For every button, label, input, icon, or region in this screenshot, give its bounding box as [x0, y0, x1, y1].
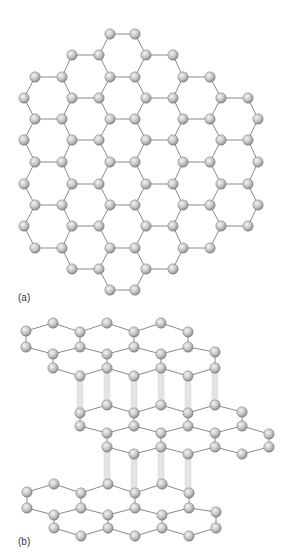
- carbon-atom: [75, 327, 85, 337]
- carbon-atom: [30, 157, 40, 167]
- carbon-atom: [130, 243, 140, 253]
- carbon-atom: [237, 407, 247, 417]
- carbon-atom: [48, 363, 58, 373]
- carbon-atom: [76, 488, 86, 498]
- carbon-atom: [168, 221, 178, 231]
- carbon-atom: [168, 264, 178, 274]
- panel-a-label: (a): [18, 292, 30, 303]
- carbon-atom: [103, 510, 113, 520]
- carbon-atom: [216, 93, 226, 103]
- carbon-atom: [178, 114, 188, 124]
- carbon-atom: [130, 488, 140, 498]
- carbon-atom: [205, 114, 215, 124]
- carbon-atom: [237, 421, 247, 431]
- carbon-atom: [94, 264, 104, 274]
- carbon-atom: [57, 114, 67, 124]
- carbon-atom: [216, 135, 226, 145]
- carbon-atom: [205, 243, 215, 253]
- carbon-atom: [205, 157, 215, 167]
- carbon-atom: [205, 200, 215, 210]
- carbon-atom: [67, 264, 77, 274]
- carbon-atom: [76, 503, 86, 513]
- carbon-atom: [178, 72, 188, 82]
- carbon-atom: [67, 93, 77, 103]
- carbon-atom: [67, 135, 77, 145]
- carbon-atom: [67, 221, 77, 231]
- carbon-atom: [94, 93, 104, 103]
- carbon-atom: [156, 442, 166, 452]
- carbon-atom: [253, 200, 263, 210]
- carbon-atom: [243, 179, 253, 189]
- carbon-atom: [49, 510, 59, 520]
- carbon-atom: [183, 421, 193, 431]
- carbon-atom: [178, 200, 188, 210]
- carbon-atom: [210, 363, 220, 373]
- carbon-atom: [19, 93, 29, 103]
- carbon-atom: [141, 135, 151, 145]
- carbon-atom: [211, 507, 221, 517]
- carbon-atom: [157, 510, 167, 520]
- carbon-atom: [253, 157, 263, 167]
- carbon-atom: [57, 72, 67, 82]
- carbon-atom: [243, 135, 253, 145]
- carbon-atom: [205, 72, 215, 82]
- carbon-atom: [243, 221, 253, 231]
- carbon-atom: [216, 221, 226, 231]
- carbon-atom: [183, 371, 193, 381]
- carbon-atom: [129, 421, 139, 431]
- carbon-atom: [49, 523, 59, 533]
- carbon-atom: [102, 363, 112, 373]
- carbon-atom: [210, 400, 220, 410]
- carbon-atom: [253, 114, 263, 124]
- panel-b-label: (b): [18, 536, 30, 547]
- carbon-atom: [75, 371, 85, 381]
- graphite-structure-figure: [0, 0, 289, 554]
- carbon-atom: [168, 135, 178, 145]
- carbon-atom: [19, 221, 29, 231]
- carbon-atom: [21, 326, 31, 336]
- carbon-atom: [102, 349, 112, 359]
- carbon-atom: [141, 264, 151, 274]
- carbon-atom: [129, 327, 139, 337]
- carbon-atom: [129, 342, 139, 352]
- carbon-atom: [210, 442, 220, 452]
- carbon-atom: [103, 523, 113, 533]
- carbon-atom: [156, 318, 166, 328]
- carbon-atom: [216, 179, 226, 189]
- carbon-atom: [30, 114, 40, 124]
- carbon-atom: [184, 503, 194, 513]
- carbon-atom: [130, 157, 140, 167]
- carbon-atom: [210, 428, 220, 438]
- carbon-atom: [130, 72, 140, 82]
- carbon-atom: [264, 442, 274, 452]
- carbon-atom: [168, 179, 178, 189]
- carbon-atom: [57, 157, 67, 167]
- carbon-atom: [130, 114, 140, 124]
- carbon-atom: [183, 342, 193, 352]
- carbon-atom: [19, 179, 29, 189]
- carbon-atom: [130, 200, 140, 210]
- carbon-atom: [75, 342, 85, 352]
- carbon-atom: [67, 50, 77, 60]
- carbon-atom: [102, 428, 112, 438]
- carbon-atom: [243, 93, 253, 103]
- carbon-atom: [102, 400, 112, 410]
- carbon-atom: [75, 421, 85, 431]
- carbon-atom: [156, 428, 166, 438]
- carbon-atom: [105, 29, 115, 39]
- carbon-atom: [57, 243, 67, 253]
- carbon-atom: [49, 479, 59, 489]
- carbon-atom: [156, 363, 166, 373]
- carbon-atom: [183, 449, 193, 459]
- carbon-atom: [102, 318, 112, 328]
- carbon-atom: [94, 135, 104, 145]
- carbon-atom: [103, 479, 113, 489]
- carbon-atom: [141, 50, 151, 60]
- carbon-atom: [30, 243, 40, 253]
- carbon-atom: [130, 503, 140, 513]
- carbon-atom: [102, 442, 112, 452]
- carbon-atom: [129, 449, 139, 459]
- carbon-atom: [129, 371, 139, 381]
- carbon-atom: [237, 449, 247, 459]
- carbon-atom: [21, 342, 31, 352]
